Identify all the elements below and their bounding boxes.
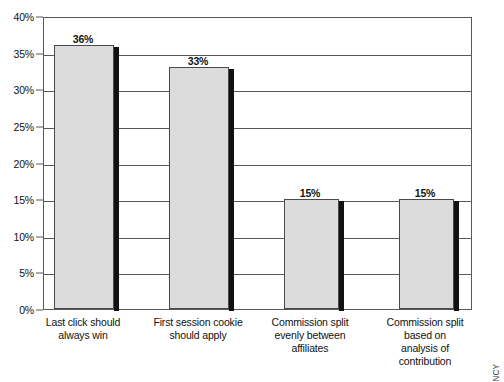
bar-1-value: 36%	[73, 33, 93, 45]
y-tick-mark-20	[36, 163, 43, 164]
y-tick-label-40: 40%	[14, 11, 34, 23]
y-tick-label-20: 20%	[14, 158, 34, 170]
bar-4-value: 15%	[415, 187, 435, 199]
category-label-2: First session cookie should apply	[153, 316, 242, 342]
y-tick-mark-0	[36, 310, 43, 311]
source-attribution-text: Source: 2009 U.S. Affiliate Census by Ec…	[492, 364, 501, 382]
bar-chart: 40% 35% 30% 25% 20% 15% 10% 5%	[0, 0, 504, 382]
bar-4	[399, 199, 454, 309]
bar-3-value: 15%	[300, 187, 320, 199]
category-label-3: Commission split evenly between affiliat…	[272, 316, 349, 355]
y-tick-label-0: 0%	[19, 304, 34, 316]
y-tick-label-10: 10%	[14, 231, 34, 243]
y-tick-mark-15	[36, 200, 43, 201]
y-tick-label-15: 15%	[14, 194, 34, 206]
bar-4-shadow	[454, 201, 459, 311]
y-tick-mark-5	[36, 273, 43, 274]
bar-3-shadow	[339, 201, 344, 311]
category-label-4: Commission split based on analysis of co…	[387, 316, 464, 368]
bar-3-rect	[284, 199, 339, 309]
bar-1	[54, 45, 114, 309]
bar-1-rect	[54, 45, 114, 309]
y-tick-mark-10	[36, 236, 43, 237]
bar-1-shadow	[114, 47, 119, 311]
bar-2	[169, 67, 229, 309]
y-tick-label-5: 5%	[19, 267, 34, 279]
y-axis: 40% 35% 30% 25% 20% 15% 10% 5%	[0, 0, 43, 330]
y-tick-mark-25	[36, 126, 43, 127]
y-tick-mark-30	[36, 90, 43, 91]
bar-2-rect	[169, 67, 229, 309]
bar-2-value: 33%	[188, 55, 208, 67]
bar-4-rect	[399, 199, 454, 309]
bar-3	[284, 199, 339, 309]
bar-2-shadow	[229, 69, 234, 311]
y-tick-label-35: 35%	[14, 48, 34, 60]
y-tick-label-30: 30%	[14, 84, 34, 96]
y-tick-mark-40	[36, 17, 43, 18]
source-attribution: Source: 2009 U.S. Affiliate Census by Ec…	[492, 364, 501, 382]
y-tick-mark-35	[36, 53, 43, 54]
category-label-1: Last click should always win	[46, 316, 121, 342]
plot-area	[43, 17, 472, 310]
y-tick-label-25: 25%	[14, 121, 34, 133]
